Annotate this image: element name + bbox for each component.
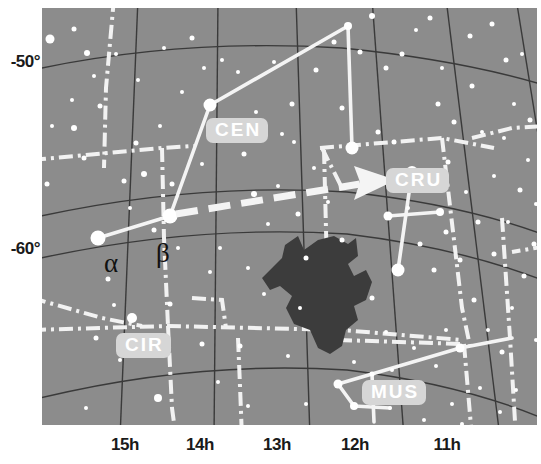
x-axis-tick-label-12h: 12h: [327, 435, 383, 455]
star-label-alpha: α: [104, 250, 118, 277]
constellation-label-cir: CIR: [116, 333, 171, 358]
constellation-label-cru: CRU: [386, 168, 449, 193]
y-axis-tick-label-minus50: -50°: [0, 52, 40, 72]
x-axis-tick-label-14h: 14h: [172, 435, 228, 455]
x-axis-tick-label-15h: 15h: [97, 435, 153, 455]
arrow-shaft: [176, 184, 360, 214]
star-chart: -50° -60° 15h 14h 13h 12h 11h: [0, 0, 541, 464]
y-axis-tick-label-minus60: -60°: [0, 239, 40, 259]
x-axis-tick-label-11h: 11h: [419, 435, 475, 455]
star-label-beta: β: [156, 240, 170, 267]
sky-map-plot-area: [42, 8, 537, 425]
constellation-label-mus: MUS: [362, 380, 426, 405]
x-axis-tick-label-13h: 13h: [249, 435, 305, 455]
pointer-arrow-annotation: [42, 8, 537, 425]
constellation-label-cen: CEN: [206, 118, 268, 143]
